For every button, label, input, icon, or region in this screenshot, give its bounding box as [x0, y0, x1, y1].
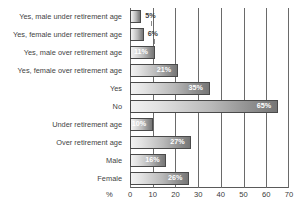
- category-labels: Yes, male under retirement ageYes, femal…: [0, 8, 126, 188]
- bar-row: 21%: [130, 62, 289, 80]
- category-label: Yes, female under retirement age: [0, 31, 122, 39]
- bar-value-label: 26%: [168, 173, 182, 183]
- bar-value-label: 5%: [145, 11, 155, 21]
- x-tick-label: 0: [121, 190, 139, 200]
- category-label: Female: [0, 175, 122, 183]
- x-tick-label: 70: [280, 190, 298, 200]
- bar-chart: Yes, male under retirement ageYes, femal…: [0, 0, 302, 222]
- x-axis-unit-label: %: [106, 190, 113, 200]
- x-tick-label: 20: [166, 190, 184, 200]
- bar-row: 16%: [130, 152, 289, 170]
- bar-value-label: 21%: [157, 65, 171, 75]
- bar-value-label: 16%: [145, 155, 159, 165]
- bar-row: 6%: [130, 26, 289, 44]
- category-label: Yes: [0, 85, 122, 93]
- category-label: Yes, male over retirement age: [0, 49, 122, 57]
- category-label: No: [0, 103, 122, 111]
- x-axis: % 010203040506070: [0, 190, 302, 204]
- category-label: Yes, female over retirement age: [0, 67, 122, 75]
- bar-value-label: 11%: [134, 47, 148, 57]
- bar-row: 5%: [130, 8, 289, 26]
- bar-row: 35%: [130, 80, 289, 98]
- x-tick-label: 50: [235, 190, 253, 200]
- category-label: Under retirement age: [0, 121, 122, 129]
- bar-row: 11%: [130, 44, 289, 62]
- x-tick-label: 10: [144, 190, 162, 200]
- bar-row: 10%: [130, 116, 289, 134]
- bar-value-label: 35%: [189, 83, 203, 93]
- bar-row: 27%: [130, 134, 289, 152]
- plot-area: 5%6%11%21%35%65%10%27%16%26%: [130, 8, 289, 188]
- category-label: Male: [0, 157, 122, 165]
- bar: [130, 10, 141, 23]
- bar-row: 26%: [130, 170, 289, 188]
- bar-value-label: 65%: [257, 101, 271, 111]
- bar-value-label: 10%: [132, 119, 146, 129]
- bar: [130, 100, 278, 113]
- bar-value-label: 6%: [148, 29, 158, 39]
- x-tick-label: 60: [257, 190, 275, 200]
- x-tick-label: 30: [189, 190, 207, 200]
- x-tick-label: 40: [212, 190, 230, 200]
- bar-value-label: 27%: [170, 137, 184, 147]
- category-label: Over retirement age: [0, 139, 122, 147]
- bar-row: 65%: [130, 98, 289, 116]
- bar: [130, 28, 144, 41]
- category-label: Yes, male under retirement age: [0, 13, 122, 21]
